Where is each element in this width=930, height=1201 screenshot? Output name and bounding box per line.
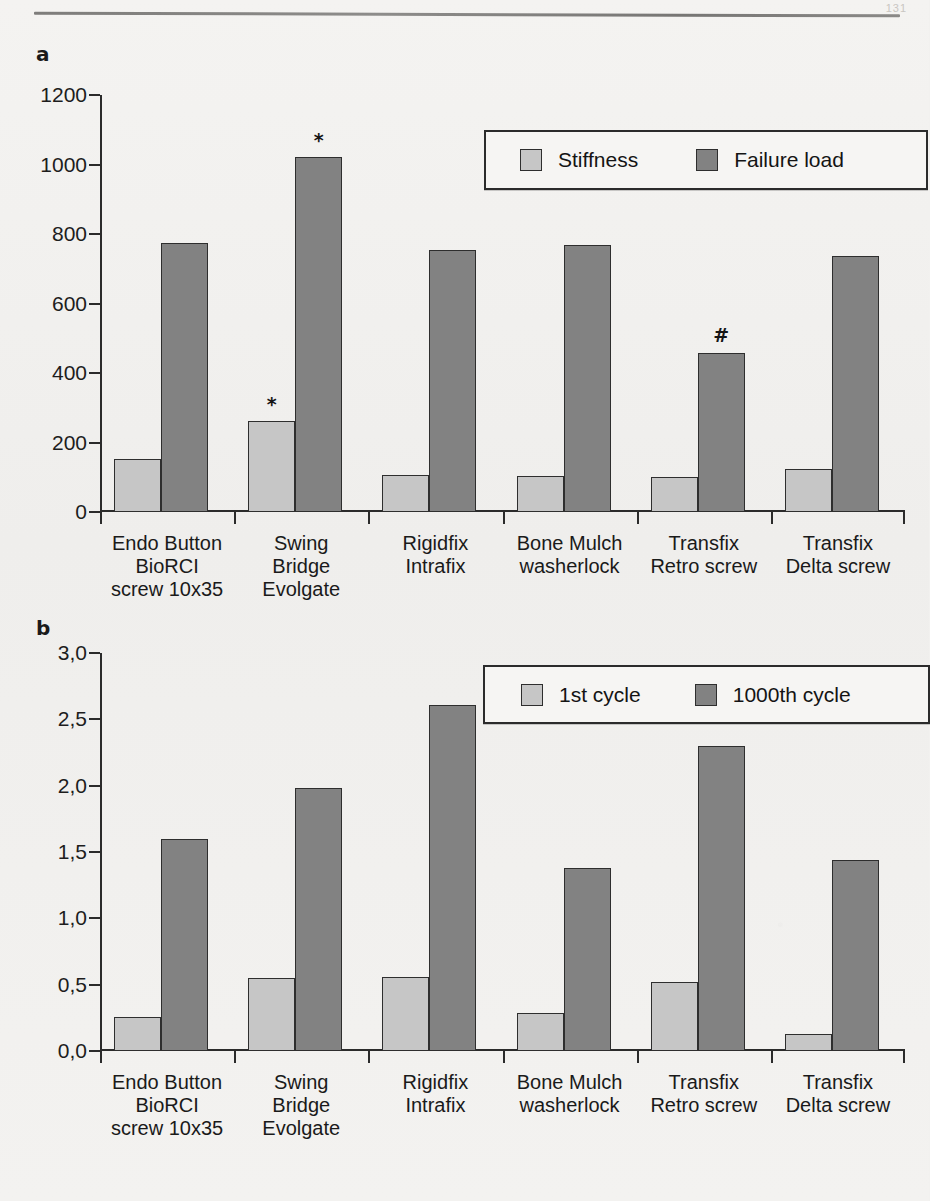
legend-swatch-1st-cycle [521, 684, 543, 706]
x-tick-a-4 [637, 512, 639, 524]
y-tick-label-a-6: 1200 [40, 83, 87, 107]
bar-b-1000th-cycle-3 [564, 868, 611, 1051]
legend-item-failure-load: Failure load [696, 148, 844, 172]
legend-label-failure-load: Failure load [734, 148, 844, 172]
bar-b-1st-cycle-5 [785, 1034, 832, 1051]
y-tick-b-1 [89, 984, 100, 986]
y-tick-b-5 [89, 718, 100, 720]
y-tick-label-a-1: 200 [52, 430, 87, 454]
bar-a-failure-load-2 [429, 250, 476, 512]
annotation-a-4-1: # [713, 326, 729, 345]
y-tick-b-2 [89, 917, 100, 919]
bar-a-stiffness-4 [651, 477, 698, 512]
legend-label-stiffness: Stiffness [558, 148, 638, 172]
x-tick-a-5 [771, 512, 773, 524]
chart-panel-b: b 0,00,51,01,52,02,53,0 1st cycle 1000th… [0, 608, 929, 1201]
y-tick-b-0 [89, 1050, 100, 1052]
y-tick-label-a-5: 1000 [40, 152, 87, 176]
x-tick-a-6 [903, 512, 905, 524]
legend-item-stiffness: Stiffness [520, 148, 638, 172]
y-tick-label-b-2: 1,0 [58, 906, 87, 930]
y-tick-label-a-3: 600 [52, 291, 87, 315]
x-tick-b-3 [503, 1051, 505, 1063]
y-tick-label-b-4: 2,0 [58, 773, 87, 797]
bar-b-1st-cycle-1 [248, 978, 295, 1051]
y-tick-label-a-0: 0 [75, 500, 87, 524]
bar-b-1st-cycle-0 [114, 1017, 161, 1051]
bar-b-1000th-cycle-0 [161, 839, 208, 1051]
legend-item-1000th-cycle: 1000th cycle [695, 683, 851, 707]
bar-a-stiffness-3 [517, 476, 564, 512]
bar-a-stiffness-1 [248, 421, 295, 512]
legend-swatch-stiffness [520, 149, 542, 171]
bar-b-1000th-cycle-5 [832, 860, 879, 1051]
bar-a-failure-load-4 [698, 353, 745, 513]
legend-swatch-1000th-cycle [695, 684, 717, 706]
y-tick-a-0 [89, 511, 100, 513]
y-tick-a-2 [89, 372, 100, 374]
annotation-a-1-0: * [267, 395, 277, 414]
y-tick-label-b-3: 1,5 [58, 840, 87, 864]
bar-b-1st-cycle-3 [517, 1013, 564, 1051]
x-tick-b-6 [903, 1051, 905, 1063]
x-tick-a-2 [368, 512, 370, 524]
bar-b-1st-cycle-2 [382, 977, 429, 1051]
y-tick-a-3 [89, 303, 100, 305]
annotation-a-1-1: * [314, 131, 324, 150]
bar-b-1000th-cycle-4 [698, 746, 745, 1051]
legend-label-1000th-cycle: 1000th cycle [733, 683, 851, 707]
y-tick-label-b-5: 2,5 [58, 707, 87, 731]
x-tick-b-0 [100, 1051, 102, 1063]
x-tick-a-1 [234, 512, 236, 524]
y-tick-label-a-4: 800 [52, 222, 87, 246]
y-tick-b-6 [89, 652, 100, 654]
panel-b-letter: b [36, 616, 50, 640]
bar-b-1000th-cycle-2 [429, 705, 476, 1051]
bar-a-stiffness-5 [785, 469, 832, 512]
x-tick-b-2 [368, 1051, 370, 1063]
x-category-label-b-5: Transfix Delta screw [758, 1071, 918, 1117]
y-tick-a-4 [89, 233, 100, 235]
x-tick-b-1 [234, 1051, 236, 1063]
y-axis-b [100, 653, 102, 1051]
y-axis-a [100, 95, 102, 512]
chart-panel-a: a 020040060080010001200**# Stiffness Fai… [0, 0, 929, 610]
legend-swatch-failure-load [696, 149, 718, 171]
bar-a-stiffness-2 [382, 475, 429, 512]
legend-item-1st-cycle: 1st cycle [521, 683, 641, 707]
y-tick-a-5 [89, 164, 100, 166]
y-tick-a-6 [89, 94, 100, 96]
bar-b-1000th-cycle-1 [295, 788, 342, 1051]
y-tick-label-b-6: 3,0 [58, 641, 87, 665]
legend-label-1st-cycle: 1st cycle [559, 683, 641, 707]
bar-a-stiffness-0 [114, 459, 161, 512]
x-category-label-a-5: Transfix Delta screw [758, 532, 918, 578]
bar-b-1st-cycle-4 [651, 982, 698, 1051]
bar-a-failure-load-3 [564, 245, 611, 512]
x-tick-a-3 [503, 512, 505, 524]
y-tick-b-4 [89, 785, 100, 787]
x-tick-a-0 [100, 512, 102, 524]
y-tick-label-a-2: 400 [52, 361, 87, 385]
legend-a: Stiffness Failure load [484, 130, 928, 190]
y-tick-b-3 [89, 851, 100, 853]
y-tick-a-1 [89, 442, 100, 444]
x-tick-b-5 [771, 1051, 773, 1063]
y-tick-label-b-1: 0,5 [58, 972, 87, 996]
bar-a-failure-load-1 [295, 157, 342, 512]
x-tick-b-4 [637, 1051, 639, 1063]
bar-a-failure-load-0 [161, 243, 208, 512]
legend-b: 1st cycle 1000th cycle [483, 665, 930, 724]
y-tick-label-b-0: 0,0 [58, 1039, 87, 1063]
panel-a-letter: a [36, 42, 50, 66]
bar-a-failure-load-5 [832, 256, 879, 512]
